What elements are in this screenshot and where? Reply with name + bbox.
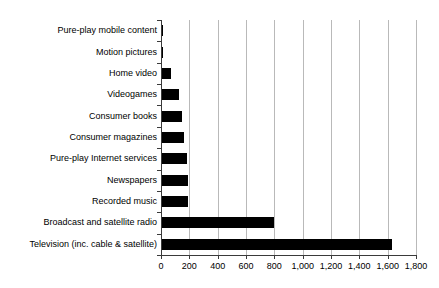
y-axis-category-label: Home video bbox=[2, 68, 157, 79]
bar[interactable] bbox=[161, 196, 188, 207]
y-axis-category-label: Consumer magazines bbox=[2, 132, 157, 143]
x-axis-tick bbox=[189, 255, 190, 259]
x-axis-tick-label: 1,600 bbox=[376, 261, 399, 272]
x-axis-tick-label: 800 bbox=[267, 261, 282, 272]
x-axis-tick bbox=[218, 255, 219, 259]
y-axis-line bbox=[161, 20, 162, 256]
x-axis-tick bbox=[274, 255, 275, 259]
bar[interactable] bbox=[161, 68, 171, 79]
y-axis-category-labels: Pure-play mobile contentMotion picturesH… bbox=[0, 20, 157, 255]
bar[interactable] bbox=[161, 175, 188, 186]
gridline-vertical bbox=[359, 20, 360, 255]
x-axis-tick-label: 1,400 bbox=[348, 261, 371, 272]
x-axis-tick-label: 0 bbox=[158, 261, 163, 272]
y-axis-category-label: Broadcast and satellite radio bbox=[2, 217, 157, 228]
gridline-vertical bbox=[388, 20, 389, 255]
bar[interactable] bbox=[161, 153, 187, 164]
y-axis-category-label: Consumer books bbox=[2, 111, 157, 122]
x-axis-line bbox=[161, 255, 417, 256]
x-axis-tick bbox=[246, 255, 247, 259]
gridline-vertical bbox=[416, 20, 417, 255]
gridline-vertical bbox=[331, 20, 332, 255]
x-axis-tick-label: 200 bbox=[182, 261, 197, 272]
x-axis-tick bbox=[303, 255, 304, 259]
y-axis-category-label: Pure-play mobile content bbox=[2, 25, 157, 36]
bar[interactable] bbox=[161, 239, 392, 250]
x-axis-tick bbox=[331, 255, 332, 259]
plot-area bbox=[161, 20, 416, 255]
y-axis-category-label: Television (inc. cable & satellite) bbox=[2, 239, 157, 250]
x-axis-tick-label: 600 bbox=[238, 261, 253, 272]
bar-chart: Pure-play mobile contentMotion picturesH… bbox=[0, 0, 439, 288]
gridline-vertical bbox=[274, 20, 275, 255]
bar[interactable] bbox=[161, 89, 179, 100]
x-axis-tick-label: 1,200 bbox=[320, 261, 343, 272]
x-axis-tick-label: 1,000 bbox=[291, 261, 314, 272]
x-axis-tick bbox=[388, 255, 389, 259]
bar[interactable] bbox=[161, 132, 184, 143]
x-axis-tick-label: 1,800 bbox=[405, 261, 428, 272]
bar[interactable] bbox=[161, 217, 274, 228]
x-axis-tick bbox=[161, 255, 162, 259]
y-axis-category-label: Pure-play Internet services bbox=[2, 153, 157, 164]
x-axis-tick bbox=[416, 255, 417, 259]
y-axis-category-label: Videogames bbox=[2, 89, 157, 100]
y-axis-category-label: Recorded music bbox=[2, 196, 157, 207]
x-axis-tick bbox=[359, 255, 360, 259]
x-axis-tick-label: 400 bbox=[210, 261, 225, 272]
y-axis-category-label: Motion pictures bbox=[2, 47, 157, 58]
y-axis-category-label: Newspapers bbox=[2, 175, 157, 186]
gridline-vertical bbox=[303, 20, 304, 255]
bar[interactable] bbox=[161, 111, 182, 122]
